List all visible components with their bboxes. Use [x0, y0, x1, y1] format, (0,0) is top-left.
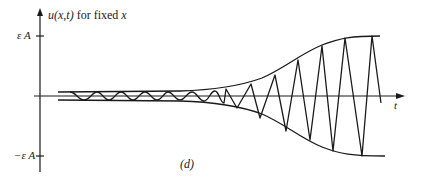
- t-axis-arrow-icon: [396, 93, 405, 99]
- tick-label-bottom: −ε A: [14, 150, 35, 161]
- y-label-args: (x,t): [54, 8, 74, 22]
- t-axis-label: t: [394, 100, 397, 111]
- y-label-rest: for fixed: [74, 8, 122, 22]
- panel-label: (d): [180, 158, 194, 170]
- y-axis-arrow-icon: [37, 8, 43, 16]
- tick-label-top: ε A: [17, 30, 31, 41]
- envelope-upper: [58, 36, 380, 92]
- figure-canvas: [0, 0, 421, 184]
- y-label-x: x: [121, 8, 126, 22]
- y-axis-label: u(x,t) for fixed x: [48, 9, 127, 21]
